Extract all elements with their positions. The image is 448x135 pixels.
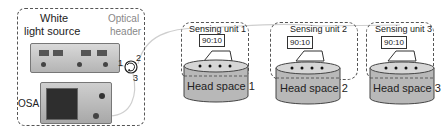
- white-light-source-label: White: [40, 12, 68, 24]
- sensing-unit-1-coupler: 90:10: [199, 34, 225, 47]
- head-space-3-label: Head space 3: [373, 82, 441, 94]
- osa-device: [40, 82, 112, 124]
- head-space-2-label: Head space 2: [280, 82, 348, 94]
- knob: [41, 62, 46, 67]
- circulator-port-2: 2: [136, 53, 141, 63]
- optical-header-label-1: Optical: [108, 13, 139, 24]
- knob: [77, 62, 82, 67]
- osa-port: [93, 113, 99, 119]
- osa-screen: [46, 88, 78, 120]
- white-light-source-device: [30, 43, 120, 73]
- display-panel: [81, 50, 91, 56]
- osa-knob: [99, 93, 105, 99]
- knob: [103, 62, 108, 67]
- display-panel: [39, 50, 49, 56]
- head-space-1-label: Head space 1: [187, 80, 255, 92]
- display-panel: [97, 50, 107, 56]
- circulator-port-1: 1: [118, 58, 123, 68]
- circulator-port-3: 3: [133, 73, 138, 83]
- sensing-unit-2-title: Sensing unit 2: [290, 24, 347, 34]
- sensing-unit-3-title: Sensing unit 3: [375, 24, 432, 34]
- display-panel: [53, 50, 63, 56]
- osa-label: OSA: [18, 98, 39, 109]
- sensing-unit-1-title: Sensing unit 1: [189, 24, 246, 34]
- white-light-source-label-line1: White: [40, 12, 68, 24]
- optical-header-label-2: header: [110, 26, 141, 37]
- white-light-source-label-2: light source: [24, 25, 80, 37]
